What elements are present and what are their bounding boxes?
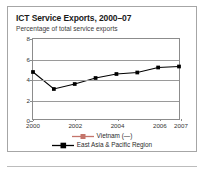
series-line-east-asia-pacific <box>33 39 179 119</box>
page-title: ICT Service Exports, 2000–07 <box>16 13 131 23</box>
y-axis-tickmark <box>30 80 33 81</box>
x-axis-tickmark <box>160 119 161 121</box>
chart-figure: ICT Service Exports, 2000–07 Percentage … <box>7 6 197 152</box>
x-axis-tick-label: 2006 <box>153 123 167 129</box>
plot-area: 0246820002002200420062007 <box>32 38 180 120</box>
x-axis-tickmark <box>181 119 182 121</box>
legend-item-vietnam: Vietnam (—) <box>72 133 133 140</box>
y-axis-tick-label: 2 <box>27 97 30 103</box>
x-axis-tickmark <box>118 119 119 121</box>
y-axis-tick-label: 4 <box>27 77 30 83</box>
chart-legend: Vietnam (—) East Asia & Pacific Region <box>8 133 196 149</box>
x-axis-tick-label: 2000 <box>26 123 40 129</box>
y-axis-tick-label: 6 <box>27 56 30 62</box>
legend-label-vietnam: Vietnam (—) <box>97 133 133 139</box>
y-axis-tick-label: 8 <box>27 36 30 42</box>
y-axis-tickmark <box>30 39 33 40</box>
x-axis-tick-label: 2004 <box>111 123 125 129</box>
y-axis-tickmark <box>30 101 33 102</box>
legend-label-east-asia-pacific: East Asia & Pacific Region <box>77 142 152 148</box>
x-axis-tick-label: 2007 <box>174 123 188 129</box>
x-axis-tick-label: 2002 <box>68 123 82 129</box>
gridline <box>33 101 179 102</box>
footer-divider <box>7 166 197 167</box>
x-axis-tickmark <box>33 119 34 121</box>
chart-subtitle: Percentage of total service exports <box>16 25 118 32</box>
y-axis-tickmark <box>30 60 33 61</box>
gridline <box>33 80 179 81</box>
legend-marker-vietnam-icon <box>72 133 94 140</box>
legend-item-east-asia-pacific: East Asia & Pacific Region <box>52 142 152 149</box>
gridline <box>33 60 179 61</box>
x-axis-tickmark <box>75 119 76 121</box>
legend-marker-east-asia-pacific-icon <box>52 142 74 149</box>
